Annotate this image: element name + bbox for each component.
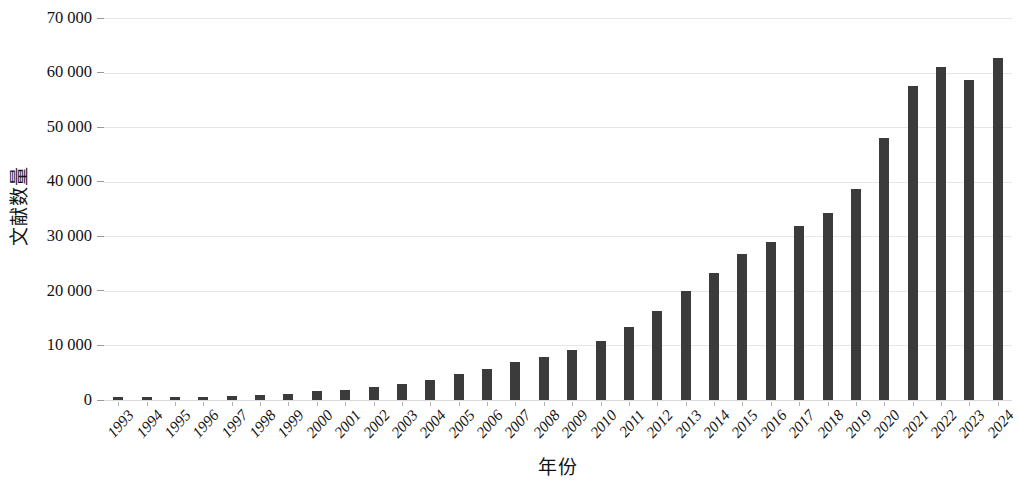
- x-axis-tick-label: 2022: [927, 407, 959, 440]
- x-axis-title: 年份: [104, 452, 1012, 479]
- x-axis-tick-mark: [742, 402, 743, 406]
- bar-slot: [728, 18, 756, 400]
- y-axis-tick-label: 60 000: [47, 64, 92, 81]
- x-axis-tick-mark: [799, 402, 800, 406]
- bar[interactable]: [993, 58, 1003, 400]
- x-axis-tick-mark: [629, 402, 630, 406]
- x-axis-tick-mark: [147, 402, 148, 406]
- x-axis-tick-mark: [657, 402, 658, 406]
- x-axis-tick-mark: [856, 402, 857, 406]
- x-axis-tick-label: 2019: [842, 407, 874, 440]
- bar[interactable]: [113, 397, 123, 400]
- x-axis-tick-mark: [317, 402, 318, 406]
- bar[interactable]: [539, 357, 549, 400]
- bar[interactable]: [851, 189, 861, 400]
- y-axis-tick-label: 40 000: [47, 173, 92, 190]
- bar[interactable]: [709, 273, 719, 400]
- bar-slot: [615, 18, 643, 400]
- bar[interactable]: [567, 350, 577, 400]
- bar-chart: 文献数量 010 00020 00030 00040 00050 00060 0…: [0, 0, 1018, 482]
- bar[interactable]: [823, 213, 833, 400]
- x-axis-tick-label: 2015: [729, 407, 761, 440]
- x-axis-tick-label: 2004: [417, 407, 449, 440]
- x-axis-tick-label: 2002: [360, 407, 392, 440]
- bar[interactable]: [652, 311, 662, 400]
- bar-slot: [161, 18, 189, 400]
- plot-area: [104, 18, 1012, 400]
- bar[interactable]: [397, 384, 407, 400]
- bar-slot: [842, 18, 870, 400]
- x-axis-tick-label: 1999: [275, 407, 307, 440]
- bar-slot: [132, 18, 160, 400]
- bar[interactable]: [681, 291, 691, 400]
- bar-slot: [218, 18, 246, 400]
- bar-slot: [757, 18, 785, 400]
- x-axis-tick-mark: [288, 402, 289, 406]
- bar[interactable]: [482, 369, 492, 400]
- bar[interactable]: [142, 397, 152, 400]
- bar[interactable]: [198, 397, 208, 400]
- y-axis-tick-group: 010 00020 00030 00040 00050 00060 00070 …: [0, 18, 104, 400]
- bar[interactable]: [596, 341, 606, 400]
- x-axis-tick-label: 2024: [984, 407, 1016, 440]
- x-axis-tick-mark: [487, 402, 488, 406]
- bar-slot: [473, 18, 501, 400]
- bar[interactable]: [283, 394, 293, 400]
- bar[interactable]: [908, 86, 918, 400]
- x-axis-tick-mark: [941, 402, 942, 406]
- bar[interactable]: [510, 362, 520, 400]
- x-axis-tick-label: 2020: [871, 407, 903, 440]
- bar-slot: [899, 18, 927, 400]
- bar-slot: [274, 18, 302, 400]
- y-axis-tick-mark: [97, 236, 104, 237]
- bar[interactable]: [879, 138, 889, 400]
- bar[interactable]: [170, 397, 180, 400]
- x-axis-tick-label: 2010: [587, 407, 619, 440]
- bar[interactable]: [766, 242, 776, 400]
- bar[interactable]: [454, 374, 464, 400]
- bar[interactable]: [369, 387, 379, 400]
- x-axis-tick-label: 1998: [246, 407, 278, 440]
- bar-slot: [246, 18, 274, 400]
- x-axis-tick-mark: [459, 402, 460, 406]
- x-axis-tick-mark: [884, 402, 885, 406]
- bar-slot: [586, 18, 614, 400]
- bar[interactable]: [936, 67, 946, 400]
- bar[interactable]: [624, 327, 634, 400]
- x-axis-tick-mark: [969, 402, 970, 406]
- x-axis-tick-label: 2018: [814, 407, 846, 440]
- y-axis-tick-mark: [97, 181, 104, 182]
- bar-slot: [416, 18, 444, 400]
- x-axis-tick-label: 2009: [558, 407, 590, 440]
- y-axis-tick-label: 0: [84, 391, 92, 408]
- bar-slot: [785, 18, 813, 400]
- bar-slot: [700, 18, 728, 400]
- bar[interactable]: [425, 380, 435, 400]
- bar[interactable]: [737, 254, 747, 400]
- x-axis-tick-label: 2021: [899, 407, 931, 440]
- x-axis-tick-mark: [828, 402, 829, 406]
- x-axis-tick-mark: [402, 402, 403, 406]
- bar-slot: [501, 18, 529, 400]
- bar[interactable]: [312, 391, 322, 400]
- y-axis-tick-mark: [97, 127, 104, 128]
- bar[interactable]: [794, 226, 804, 400]
- x-axis-tick-mark: [544, 402, 545, 406]
- bar[interactable]: [340, 390, 350, 400]
- bar[interactable]: [964, 80, 974, 400]
- x-axis-tick-mark: [572, 402, 573, 406]
- y-axis-tick-mark: [97, 72, 104, 73]
- bar-slot: [672, 18, 700, 400]
- bar-slot: [530, 18, 558, 400]
- y-axis-tick-label: 30 000: [47, 228, 92, 245]
- x-axis-tick-mark: [345, 402, 346, 406]
- bar-slot: [984, 18, 1012, 400]
- bar[interactable]: [255, 395, 265, 400]
- y-axis-tick-mark: [97, 18, 104, 19]
- x-axis-tick-mark: [998, 402, 999, 406]
- x-axis-tick-mark: [515, 402, 516, 406]
- bar-slot: [359, 18, 387, 400]
- x-axis-tick-label: 2023: [956, 407, 988, 440]
- x-axis-tick-label: 2006: [473, 407, 505, 440]
- bar[interactable]: [227, 396, 237, 400]
